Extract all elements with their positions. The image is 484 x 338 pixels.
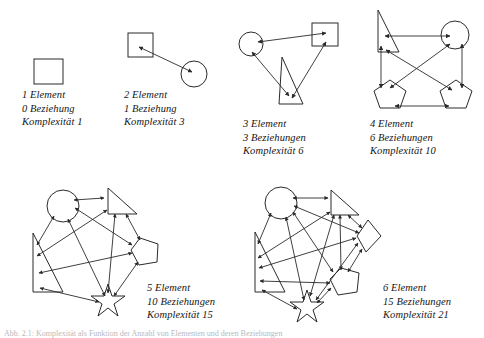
panel-3-graphic — [239, 23, 338, 104]
panel-5-relations-text: 10 Beziehungen — [147, 295, 215, 309]
panel-1-relations-text: 0 Beziehung — [22, 102, 83, 116]
figure-footnote: Abb. 2.1: Komplexität als Funktion der A… — [4, 329, 480, 338]
relation-edge — [390, 44, 450, 88]
panel-1-caption: 1 Element 0 Beziehung Komplexität 1 — [22, 88, 83, 129]
shape-pentagon — [374, 80, 406, 108]
relation-edge — [139, 47, 192, 72]
panel-1-complexity-text: Komplexität 1 — [22, 115, 83, 129]
panel-5-graphic — [33, 188, 158, 316]
panel-3-caption: 3 Element 3 Beziehungen Komplexität 6 — [243, 117, 306, 158]
relation-edge — [316, 243, 358, 300]
panel-2-graphic — [128, 33, 207, 87]
relation-edge — [348, 215, 362, 228]
relation-edge — [310, 215, 334, 296]
relation-edge — [260, 281, 330, 283]
complexity-figure: 1 Element 0 Beziehung Komplexität 1 2 El… — [0, 0, 484, 338]
relation-edge — [262, 290, 297, 309]
panel-6-caption: 6 Element 15 Beziehungen Komplexität 21 — [383, 281, 451, 322]
relation-edge — [114, 262, 138, 296]
panel-2-caption: 2 Element 1 Beziehung Komplexität 3 — [124, 88, 185, 129]
panel-6-relations-text: 15 Beziehungen — [383, 295, 451, 309]
shape-circle — [441, 21, 469, 49]
panel-5-complexity-text: Komplexität 15 — [147, 308, 215, 322]
shape-square — [128, 33, 153, 57]
shape-star — [290, 290, 324, 322]
shape-square — [34, 59, 63, 84]
relation-edge — [258, 33, 326, 42]
panel-2-relations-text: 1 Beziehung — [124, 102, 185, 116]
relation-edge — [40, 288, 99, 302]
panel-5-caption: 5 Element 10 Beziehungen Komplexität 15 — [147, 281, 215, 322]
panel-3-complexity-text: Komplexität 6 — [243, 144, 306, 158]
panel-6-elements-text: 6 Element — [383, 281, 451, 295]
panel-1-graphic — [34, 59, 63, 84]
relation-edge — [292, 42, 326, 98]
relation-edge — [108, 214, 115, 293]
panel-2-complexity-text: Komplexität 3 — [124, 115, 185, 129]
panel-4-graphic — [374, 10, 472, 108]
shape-triangle — [108, 188, 137, 214]
shape-triangle — [378, 10, 399, 52]
shape-pentagon — [131, 238, 158, 265]
relation-edge — [259, 238, 356, 268]
relation-edge — [126, 214, 140, 240]
shape-circle — [239, 32, 263, 56]
shape-circle — [181, 61, 207, 87]
relation-edge — [37, 210, 107, 256]
shape-diamond — [357, 220, 381, 252]
panel-1-elements-text: 1 Element — [22, 88, 83, 102]
panel-6-complexity-text: Komplexität 21 — [383, 308, 451, 322]
panel-4-relations-text: 6 Beziehungen — [370, 131, 436, 145]
shape-triangle — [331, 190, 359, 215]
relation-edge — [348, 249, 362, 272]
panel-2-elements-text: 2 Element — [124, 88, 185, 102]
shape-circle — [265, 187, 297, 219]
relation-edge — [252, 52, 289, 96]
shape-pentagon — [440, 80, 472, 108]
panel-4-elements-text: 4 Element — [370, 117, 436, 131]
relation-edge — [258, 213, 271, 244]
shape-pentagon — [330, 268, 359, 295]
panel-3-relations-text: 3 Beziehungen — [243, 131, 306, 145]
panel-4-complexity-text: Komplexität 10 — [370, 144, 436, 158]
relation-edge — [74, 198, 104, 200]
panel-3-elements-text: 3 Element — [243, 117, 306, 131]
relation-edge — [37, 216, 54, 245]
relation-edge — [293, 212, 333, 272]
panel-5-elements-text: 5 Element — [147, 281, 215, 295]
relation-edge — [68, 219, 105, 296]
panel-4-caption: 4 Element 6 Beziehungen Komplexität 10 — [370, 117, 436, 158]
shape-circle — [47, 190, 79, 222]
panel-6-graphic — [255, 187, 381, 322]
shape-triangle — [279, 57, 303, 104]
